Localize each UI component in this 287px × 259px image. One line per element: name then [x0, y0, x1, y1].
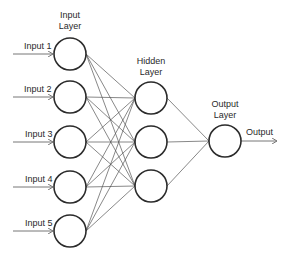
hidden-node-3: [135, 170, 167, 202]
input-layer-label-line1: Input: [60, 10, 81, 20]
input-label-3: Input 3: [25, 129, 53, 139]
input-label-5: Input 5: [25, 218, 53, 228]
input-arrows: [13, 54, 53, 231]
input-layer-label-line2: Layer: [59, 21, 82, 31]
input-label-1: Input 1: [24, 41, 52, 51]
hidden-layer-label-line1: Hidden: [137, 56, 166, 66]
hidden-output-edges: [167, 98, 209, 186]
input-node-1: [54, 38, 86, 70]
input-label-4: Input 4: [25, 174, 53, 184]
hidden-node-1: [135, 82, 167, 114]
input-label-2: Input 2: [24, 84, 52, 94]
hidden-node-2: [135, 126, 167, 158]
hidden-layer-nodes: [135, 82, 167, 202]
input-node-3: [54, 126, 86, 158]
input-node-2: [54, 81, 86, 113]
neural-network-diagram: Input Layer Hidden Layer Output Layer In…: [0, 0, 287, 259]
output-label: Output: [246, 127, 274, 137]
output-node: [209, 125, 241, 157]
output-layer-label-line1: Output: [211, 99, 239, 109]
input-node-4: [54, 171, 86, 203]
input-node-5: [54, 215, 86, 247]
input-layer-nodes: [54, 38, 86, 247]
input-hidden-edges: [86, 54, 135, 231]
output-layer-label-line2: Layer: [214, 110, 237, 120]
hidden-layer-label-line2: Layer: [140, 67, 163, 77]
